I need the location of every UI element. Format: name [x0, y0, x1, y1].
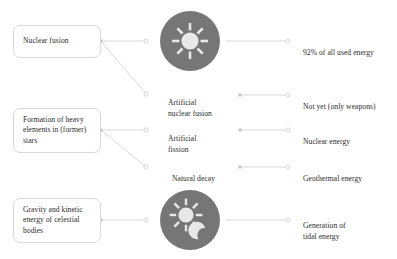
mechanism-label-natural-decay: Natural decay	[172, 163, 215, 185]
mechanism-text: Artificial fission	[168, 134, 196, 154]
connector-heavy-to-decay	[101, 130, 146, 167]
connector-tick	[239, 94, 242, 97]
output-label-geothermal-energy: Geothermal energy	[303, 163, 362, 185]
output-label-tidal-energy: Generation of tidal energy	[303, 210, 346, 242]
output-label-all-used-energy: 92% of all used energy	[303, 37, 374, 59]
connector-dot	[144, 165, 148, 169]
source-label: Formation of heavy elements in (former) …	[23, 115, 91, 146]
source-box-nuclear-fusion[interactable]: Nuclear fusion	[13, 25, 101, 58]
connector-tick	[239, 129, 242, 132]
connector-dot	[144, 39, 148, 43]
connector-tick	[239, 166, 242, 169]
output-text: Generation of tidal energy	[303, 221, 346, 241]
output-text: Nuclear energy	[303, 137, 350, 146]
mechanism-text: Artificial nuclear fusion	[168, 98, 212, 118]
sun-icon	[160, 11, 220, 71]
source-label: Gravity and kinetic energy of celestial …	[23, 205, 91, 236]
source-label: Nuclear fusion	[23, 36, 69, 46]
output-text: Geothermal energy	[303, 174, 362, 183]
source-box-gravity-kinetic[interactable]: Gravity and kinetic energy of celestial …	[13, 198, 101, 243]
connector-dot	[286, 128, 290, 132]
output-label-not-yet-weapons: Not yet (only weapons)	[303, 91, 376, 113]
output-label-nuclear-energy: Nuclear energy	[303, 126, 350, 148]
connector-dot	[286, 165, 290, 169]
output-text: 92% of all used energy	[303, 48, 374, 57]
sun-moon-badge[interactable]	[160, 190, 220, 250]
connector-dot	[144, 92, 148, 96]
connector-dot	[144, 128, 148, 132]
connector-fusion-to-artfusion	[101, 41, 146, 94]
connector-dot	[286, 93, 290, 97]
sun-moon-icon	[160, 190, 220, 250]
connector-dot	[144, 218, 148, 222]
mechanism-label-artificial-fission: Artificial fission	[168, 123, 196, 155]
connector-dot	[286, 39, 290, 43]
diagram-canvas: Nuclear fusion Formation of heavy elemen…	[0, 0, 397, 259]
output-text: Not yet (only weapons)	[303, 102, 376, 111]
source-box-heavy-elements[interactable]: Formation of heavy elements in (former) …	[13, 108, 101, 153]
mechanism-label-artificial-nuclear-fusion: Artificial nuclear fusion	[168, 87, 212, 119]
sun-badge[interactable]	[160, 11, 220, 71]
connector-dot	[286, 218, 290, 222]
mechanism-text: Natural decay	[172, 174, 215, 183]
